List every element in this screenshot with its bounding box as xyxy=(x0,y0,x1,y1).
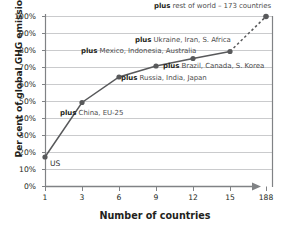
x-axis-arrow xyxy=(252,183,261,191)
x-axis-title: Number of countries xyxy=(40,210,270,221)
chart-container: Per cent of global GHG emissions 100% 90… xyxy=(0,0,281,230)
y-tick-label-70: 70% xyxy=(2,63,36,72)
annotation-china-bold: plus xyxy=(60,109,76,117)
annotation-russia: plus Russia, India, Japan xyxy=(121,74,207,82)
y-tick-label-80: 80% xyxy=(2,46,36,55)
x-tick-label-6: 6 xyxy=(106,193,132,202)
annotation-rest-of-world: plus rest of world – 173 countries xyxy=(154,2,271,10)
x-tick-label-12: 12 xyxy=(180,193,206,202)
y-tick-label-40: 40% xyxy=(2,114,36,123)
annotation-ukraine-text: Ukraine, Iran, S. Africa xyxy=(151,36,230,44)
x-tick-label-15: 15 xyxy=(217,193,243,202)
y-tick-label-90: 90% xyxy=(2,29,36,38)
data-point-1 xyxy=(42,154,47,159)
annotation-ukraine-bold: plus xyxy=(135,36,151,44)
annotation-brazil-text: Brazil, Canada, S. Korea xyxy=(179,62,264,70)
y-tick-label-10: 10% xyxy=(2,165,36,174)
data-point-15 xyxy=(227,49,232,54)
annotation-rest-of-world-bold: plus xyxy=(154,2,170,10)
series-line-dashed xyxy=(230,17,266,52)
annotation-china-text: China, EU-25 xyxy=(76,109,123,117)
y-tick-label-20: 20% xyxy=(2,148,36,157)
annotation-ukraine: plus Ukraine, Iran, S. Africa xyxy=(135,36,231,44)
annotation-russia-text: Russia, India, Japan xyxy=(137,74,206,82)
data-point-188 xyxy=(263,14,269,20)
annotation-brazil: plus Brazil, Canada, S. Korea xyxy=(163,62,264,70)
x-tick-label-3: 3 xyxy=(69,193,95,202)
annotation-mexico: plus Mexico, Indonesia, Australia xyxy=(81,47,196,55)
x-tick-label-1: 1 xyxy=(32,193,58,202)
annotation-brazil-bold: plus xyxy=(163,62,179,70)
y-tick-label-30: 30% xyxy=(2,131,36,140)
annotation-rest-of-world-text: rest of world – 173 countries xyxy=(170,2,271,10)
annotation-mexico-text: Mexico, Indonesia, Australia xyxy=(97,47,196,55)
annotation-china: plus China, EU-25 xyxy=(60,109,123,117)
y-tick-label-100: 100% xyxy=(2,12,36,21)
annotation-russia-bold: plus xyxy=(121,74,137,82)
y-tick-label-50: 50% xyxy=(2,97,36,106)
x-tick-label-9: 9 xyxy=(143,193,169,202)
data-point-3 xyxy=(79,100,84,105)
data-point-12 xyxy=(190,56,195,61)
y-tick-label-0: 0% xyxy=(2,182,36,191)
x-tick-label-188: 188 xyxy=(253,193,279,202)
annotation-us: US xyxy=(50,159,60,168)
data-point-9 xyxy=(153,63,158,68)
annotation-mexico-bold: plus xyxy=(81,47,97,55)
y-tick-label-60: 60% xyxy=(2,80,36,89)
